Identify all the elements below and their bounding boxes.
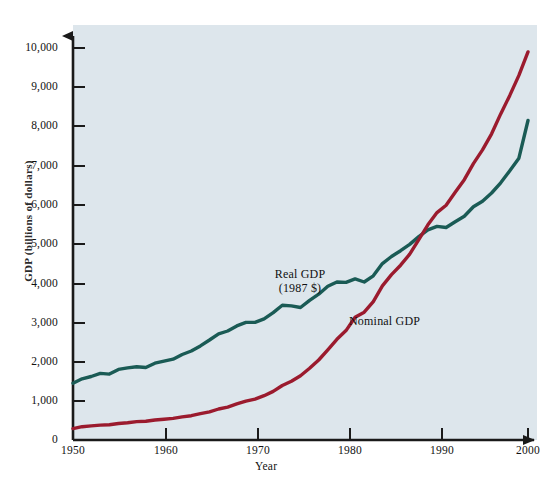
x-axis-ticks: [73, 428, 528, 440]
y-tick-label-1000: 1,000: [2, 395, 58, 406]
x-tick-label-1950: 1950: [48, 444, 98, 456]
y-tick-label-2000: 2,000: [2, 356, 58, 367]
x-tick-label-1960: 1960: [141, 444, 191, 456]
real-gdp-annotation-line1: Real GDP: [254, 267, 346, 281]
x-tick-label-1980: 1980: [325, 444, 375, 456]
x-axis-title: Year: [255, 460, 277, 472]
x-tick-label-1990: 1990: [417, 444, 467, 456]
nominal-gdp-annotation: Nominal GDP: [349, 314, 449, 328]
chart-canvas: [0, 0, 555, 489]
x-tick-label-1970: 1970: [233, 444, 283, 456]
y-tick-label-9000: 9,000: [2, 81, 58, 92]
x-tick-label-2000: 2000: [503, 444, 553, 456]
chart-page: 10,000 9,000 8,000 7,000 6,000 5,000 4,0…: [0, 0, 555, 489]
y-axis-ticks: [73, 48, 85, 401]
real-gdp-annotation-line2: (1987 $): [254, 281, 346, 295]
nominal-gdp-annotation-line1: Nominal GDP: [349, 314, 449, 328]
y-tick-label-10000: 10,000: [2, 42, 58, 53]
series-nominal-gdp: [73, 52, 528, 429]
y-axis-title: GDP (billions of dollars): [22, 121, 34, 321]
real-gdp-annotation: Real GDP (1987 $): [254, 267, 346, 295]
series-real-gdp: [73, 121, 528, 384]
